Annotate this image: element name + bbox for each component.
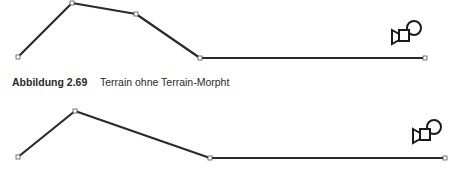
camera-icon <box>392 21 421 44</box>
terrain-figure-bottom <box>0 100 460 172</box>
terrain-profile-top <box>0 0 460 66</box>
caption-label: Abbildung 2.69 <box>12 76 87 88</box>
terrain-profile-bottom <box>0 100 460 172</box>
figure-caption: Abbildung 2.69 Terrain ohne Terrain-Morp… <box>12 76 229 88</box>
vertex-markers <box>16 1 427 60</box>
camera-icon <box>413 120 441 143</box>
vertex-markers <box>16 109 447 160</box>
terrain-figure-top <box>0 0 460 66</box>
caption-text: Terrain ohne Terrain-Morpht <box>100 76 229 88</box>
